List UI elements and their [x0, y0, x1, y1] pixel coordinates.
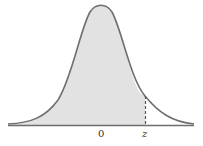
shaded-area	[8, 5, 145, 125]
mean-label: 0	[98, 128, 104, 139]
z-label: z	[142, 128, 147, 139]
normal-curve-diagram	[0, 0, 203, 146]
